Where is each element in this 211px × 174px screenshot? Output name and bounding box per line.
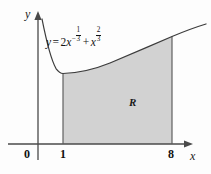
equation-term-one: x−13: [66, 28, 81, 48]
x-axis-label: x: [190, 150, 195, 162]
y-axis-arrow-icon: [34, 11, 41, 20]
equation-equals: =: [51, 36, 61, 48]
exponent-two-denominator: 3: [96, 35, 102, 44]
x-tick-label-8: 8: [168, 148, 174, 160]
x-tick-label-1: 1: [60, 148, 66, 160]
graph-canvas: [0, 0, 211, 174]
equation-exponent-two-fraction: 23: [96, 27, 102, 43]
y-axis-label: y: [25, 8, 30, 20]
exponent-two-numerator: 2: [96, 27, 102, 35]
origin-label: 0: [24, 148, 30, 160]
equation-plus: +: [81, 36, 91, 48]
x-axis-arrow-icon: [184, 140, 193, 147]
figure-container: y x 0 1 8 R y=2x−13+x23: [0, 0, 211, 174]
equation-term-two: x23: [91, 28, 102, 48]
function-equation-label: y=2x−13+x23: [46, 28, 101, 48]
region-label-R: R: [129, 97, 136, 108]
shaded-region-R: [63, 37, 172, 145]
equation-exponent-one-fraction: 13: [76, 27, 82, 43]
exponent-one-denominator: 3: [76, 35, 82, 44]
exponent-one-numerator: 1: [76, 27, 82, 35]
